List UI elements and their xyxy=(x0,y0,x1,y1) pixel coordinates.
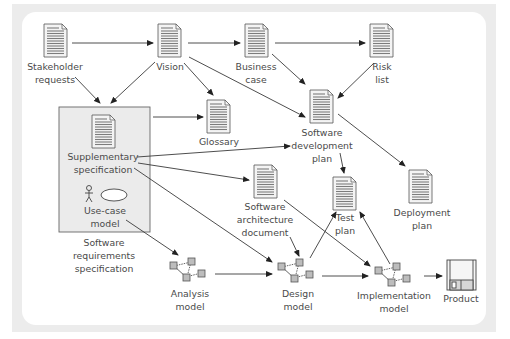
software-architecture-document-label: Software xyxy=(245,201,286,212)
software-development-plan-label-3: plan xyxy=(312,153,332,164)
srs-label: Software xyxy=(84,237,125,248)
deployment-plan-label: Deployment xyxy=(394,207,451,218)
srs-label-2: requirements xyxy=(73,250,135,261)
implementation-model-icon[interactable] xyxy=(375,263,410,286)
glossary-document-icon[interactable] xyxy=(207,100,230,133)
vision-label: Vision xyxy=(156,61,184,72)
srs-label-3: specification xyxy=(75,263,134,274)
glossary-label: Glossary xyxy=(199,136,240,147)
software-development-plan-document-icon[interactable] xyxy=(310,90,333,123)
test-plan-label-2: plan xyxy=(335,225,355,236)
floppy-disk-icon[interactable] xyxy=(447,260,476,290)
vision-document-icon[interactable] xyxy=(158,24,181,57)
stakeholder-requests-label-2: requests xyxy=(35,74,75,85)
analysis-model-label-2: model xyxy=(176,301,205,312)
use-case-model-label: Use-case xyxy=(84,205,126,216)
test-plan-label: Test xyxy=(335,212,355,223)
use-case-model-label-2: model xyxy=(91,218,120,229)
stakeholder-requests-label: Stakeholder xyxy=(27,61,83,72)
software-development-plan-label: Software xyxy=(302,127,343,138)
supplementary-specification-label: Supplementary xyxy=(67,151,139,162)
product-label: Product xyxy=(443,293,479,304)
test-plan-document-icon[interactable] xyxy=(333,177,356,210)
analysis-model-icon[interactable] xyxy=(170,258,205,281)
risk-list-document-icon[interactable] xyxy=(370,24,393,57)
supplementary-specification-label-2: specification xyxy=(74,164,133,175)
risk-list-label: Risk xyxy=(372,61,392,72)
business-case-label-2: case xyxy=(245,74,267,85)
analysis-model-label: Analysis xyxy=(171,288,209,299)
artifact-diagram: Stakeholder requests Vision Business cas… xyxy=(0,0,510,339)
business-case-label: Business xyxy=(236,61,277,72)
implementation-model-label: Implementation xyxy=(357,290,431,301)
software-architecture-document-label-2: architecture xyxy=(237,214,294,225)
design-model-icon[interactable] xyxy=(278,259,313,282)
implementation-model-label-2: model xyxy=(380,303,409,314)
deployment-plan-label-2: plan xyxy=(412,220,432,231)
deployment-plan-document-icon[interactable] xyxy=(409,170,432,203)
software-architecture-document-label-3: document xyxy=(242,227,289,238)
business-case-document-icon[interactable] xyxy=(245,24,268,57)
supplementary-specification-document-icon[interactable] xyxy=(92,115,115,148)
design-model-label: Design xyxy=(282,288,314,299)
design-model-label-2: model xyxy=(284,301,313,312)
risk-list-label-2: list xyxy=(375,74,389,85)
software-architecture-document-icon[interactable] xyxy=(254,165,277,198)
software-development-plan-label-2: development xyxy=(291,140,353,151)
stakeholder-requests-document-icon[interactable] xyxy=(44,24,67,57)
